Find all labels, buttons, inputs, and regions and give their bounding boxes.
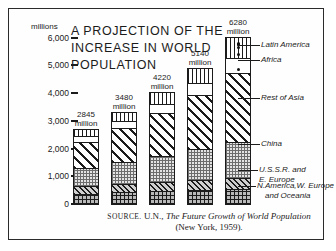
source-label: SOURCE. (107, 212, 141, 221)
bar-value-1990: 5140million (175, 50, 225, 67)
segment-ussr-e-europe (226, 178, 250, 189)
y-tick-0: 0 (23, 199, 69, 209)
legend-nwo-line-1: N.America,W. Europe (257, 181, 334, 190)
bar-value-2000: 6280million (213, 19, 263, 36)
leader-line-nwo (238, 186, 256, 187)
segment-china (112, 162, 136, 184)
segment-latin-america (150, 93, 174, 104)
leader-dot-latin (237, 46, 240, 49)
segment-ussr-e-europe (150, 182, 174, 192)
y-tick-6000: 6,000 (23, 33, 69, 43)
segment-rest-of-asia (226, 73, 250, 142)
legend-label-china: China (261, 139, 282, 149)
leader-dot-china (237, 53, 240, 56)
bar-1980[interactable] (149, 92, 175, 205)
segment-china (188, 149, 212, 180)
segment-rest-of-asia (74, 142, 98, 168)
source-note: SOURCE. U.N., The Future Growth of World… (101, 211, 317, 233)
segment-north-america-w-europe-oceania (188, 190, 212, 204)
bar-1970[interactable] (111, 112, 137, 205)
leader-line-africa (238, 60, 260, 61)
segment-latin-america (188, 69, 212, 83)
legend-label-africa: Africa (261, 55, 281, 65)
segment-north-america-w-europe-oceania (74, 194, 98, 204)
segment-ussr-e-europe (112, 184, 136, 193)
chart-canvas: millions A PROJECTION OF THE INCREASE IN… (9, 9, 323, 239)
source-imprint: (New York, 1959). (175, 222, 242, 232)
segment-ussr-e-europe (74, 186, 98, 194)
leader-dot-asia (237, 68, 240, 71)
bar-1990[interactable] (187, 68, 213, 205)
bar-value-1980: 4220million (137, 74, 187, 91)
segment-latin-america (112, 113, 136, 121)
leader-line-asia (238, 98, 260, 99)
source-agency: U.N., (144, 211, 164, 221)
bar-value-1958: 2845million (61, 111, 111, 128)
legend-nwo-line-2: and Oceania (265, 191, 310, 201)
y-axis-label: millions (31, 22, 58, 31)
segment-north-america-w-europe-oceania (112, 192, 136, 204)
chart-frame: millions A PROJECTION OF THE INCREASE IN… (8, 8, 324, 240)
segment-north-america-w-europe-oceania (150, 191, 174, 204)
segment-north-america-w-europe-oceania (226, 189, 250, 204)
bar-value-1970: 3480million (99, 94, 149, 111)
segment-china (226, 142, 250, 178)
y-tick-4000: 4,000 (23, 88, 69, 98)
bar-2000[interactable] (225, 37, 251, 205)
segment-rest-of-asia (150, 113, 174, 156)
y-tick-2000: 2,000 (23, 144, 69, 154)
segment-china (150, 156, 174, 182)
legend-label-namerica-weurope-oceania: N.America,W. Europe and Oceania (257, 181, 334, 200)
y-tick-5000: 5,000 (23, 60, 69, 70)
segment-ussr-e-europe (188, 180, 212, 191)
segment-rest-of-asia (188, 95, 212, 149)
source-work: The Future Growth of World Population (166, 211, 311, 221)
segment-africa (112, 121, 136, 129)
leader-line-china (238, 144, 260, 145)
legend-label-latin-america: Latin America (261, 40, 310, 50)
segment-china (74, 168, 98, 186)
segment-rest-of-asia (112, 128, 136, 162)
segment-africa (150, 104, 174, 113)
y-tick-1000: 1,000 (23, 171, 69, 181)
leader-line-latin (238, 45, 260, 46)
segment-africa (188, 83, 212, 95)
plot-area: 2845million 1958 3480million (71, 31, 251, 205)
leader-line-ussr (238, 170, 258, 171)
legend-label-rest-of-asia: Rest of Asia (261, 93, 304, 103)
legend-ussr-line-1: U.S.S.R. and (259, 165, 306, 174)
bar-1958[interactable] (73, 129, 99, 205)
